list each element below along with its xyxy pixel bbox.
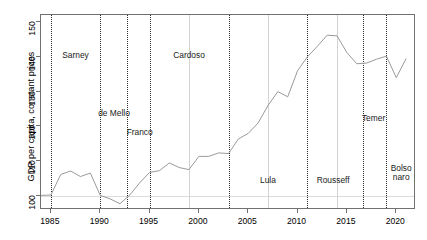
gdp-series-line <box>41 15 415 209</box>
president-label: Sarney <box>62 51 89 60</box>
y-tick-label: 130 <box>28 91 37 106</box>
x-tick-mark <box>99 209 100 213</box>
x-tick-label: 2020 <box>386 216 405 226</box>
plot-area: Sarneyde MelloFrancoCardosoLulaRousseffT… <box>40 14 415 209</box>
president-label: Bolso naro <box>391 164 412 183</box>
x-axis: 19851990199520002005201020152020 <box>0 209 427 240</box>
x-tick-mark <box>395 209 396 213</box>
x-tick-label: 2010 <box>287 216 306 226</box>
y-axis: GDP per capita, constant prices 10011012… <box>0 0 40 240</box>
president-label: Franco <box>127 128 153 137</box>
x-tick-mark <box>297 209 298 213</box>
president-label: Rousseff <box>317 176 350 185</box>
x-tick-mark <box>247 209 248 213</box>
x-tick-label: 2015 <box>336 216 355 226</box>
president-label: Lula <box>260 176 276 185</box>
y-axis-title: GDP per capita, constant prices <box>27 17 36 217</box>
x-tick-mark <box>346 209 347 213</box>
y-tick-label: 110 <box>28 160 37 174</box>
y-tick-label: 100 <box>28 195 37 210</box>
president-label: Cardoso <box>173 51 205 60</box>
x-tick-label: 1985 <box>40 216 59 226</box>
president-label: Temer <box>362 114 385 123</box>
x-tick-mark <box>50 209 51 213</box>
x-tick-mark <box>198 209 199 213</box>
x-tick-label: 1990 <box>90 216 109 226</box>
y-tick-label: 120 <box>28 125 37 140</box>
x-tick-label: 2000 <box>188 216 207 226</box>
x-tick-label: 1995 <box>139 216 158 226</box>
y-tick-label: 140 <box>28 56 37 71</box>
y-tick-label: 150 <box>28 21 37 36</box>
x-tick-label: 2005 <box>238 216 257 226</box>
president-label: de Mello <box>98 109 130 118</box>
gdp-per-capita-chart: GDP per capita, constant prices 10011012… <box>0 0 427 240</box>
x-tick-mark <box>149 209 150 213</box>
